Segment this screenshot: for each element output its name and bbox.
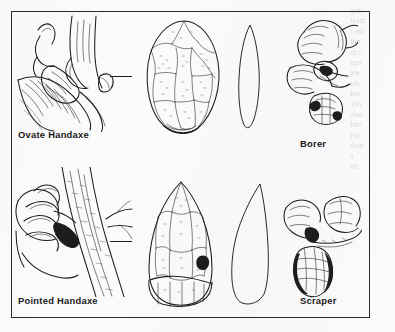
scanned-page-background: ship most the r mit r to equ are olo ted… [0, 0, 395, 332]
label-scraper: Scraper [300, 295, 337, 306]
figure-frame: Ovate Handaxe Borer [11, 11, 370, 318]
borer-use-scene [280, 16, 358, 128]
pointed-handaxe-profile-view [226, 182, 276, 306]
label-pointed-handaxe: Pointed Handaxe [18, 295, 98, 306]
label-borer: Borer [300, 138, 326, 149]
scraper-use-scene [282, 186, 362, 298]
pointed-handaxe-use-scene [14, 167, 134, 297]
pointed-handaxe-face-view [136, 180, 226, 308]
ovate-handaxe-profile-view [230, 22, 270, 134]
pointed-connector-dash [110, 241, 132, 242]
label-ovate-handaxe: Ovate Handaxe [18, 129, 89, 140]
ovate-handaxe-face-view [142, 18, 226, 136]
ovate-connector-dash [110, 76, 132, 77]
ovate-handaxe-use-scene [14, 14, 122, 132]
